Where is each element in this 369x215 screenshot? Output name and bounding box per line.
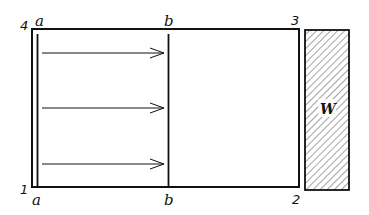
arrow-3 [42,159,164,169]
arrow-2 [42,103,164,113]
corner-label-4: 4 [20,18,28,33]
diagram-canvas: 4 a b 3 1 a b 2 W [0,0,369,215]
line-a-bottom-label: a [32,191,41,209]
corner-label-3: 3 [291,13,299,28]
line-b-top-label: b [164,12,174,30]
wall-label: W [320,101,337,117]
corner-label-1: 1 [20,182,28,197]
corner-label-2: 2 [292,192,300,207]
line-b-bottom-label: b [164,191,174,209]
line-a-top-label: a [35,12,44,30]
arrow-1 [42,48,164,58]
